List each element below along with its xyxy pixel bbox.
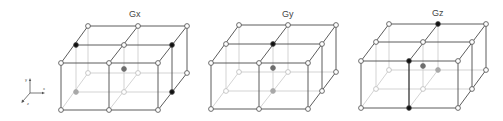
- grid-gy: Gy: [209, 9, 339, 111]
- grid-gx: Gx: [59, 9, 190, 112]
- nodes: [209, 23, 339, 112]
- x-axis-label: x: [43, 86, 45, 91]
- grid-title: Gz: [432, 8, 444, 18]
- grid-title: Gy: [282, 9, 294, 19]
- nodes: [359, 22, 489, 111]
- stencil-diagram: y x z Gx: [0, 0, 503, 121]
- z-axis-label: z: [27, 101, 29, 106]
- y-axis-label: y: [25, 77, 27, 82]
- nodes: [59, 24, 190, 113]
- grid-gz: Gz: [359, 8, 489, 110]
- grid-title: Gx: [129, 9, 141, 19]
